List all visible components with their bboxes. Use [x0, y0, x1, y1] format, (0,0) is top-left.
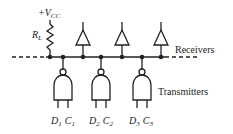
transmitter-2-inputs: D2C2 [88, 115, 113, 128]
transmitter-1-inputs: D1C1 [50, 115, 75, 128]
transmitter-3 [133, 57, 151, 108]
receiver-3 [154, 22, 168, 57]
transmitter-3-inputs: D3C3 [128, 115, 153, 128]
receivers-label: Receivers [175, 44, 215, 55]
resistor-label: RL [31, 29, 42, 42]
resistor-icon [47, 24, 53, 57]
transmitter-2 [92, 57, 110, 108]
vcc-label: +VCC [38, 7, 61, 20]
receiver-2 [115, 22, 129, 57]
bus-diagram: +VCC RL Receivers Transmitters D1C1 D2C2… [0, 0, 233, 134]
receiver-1 [76, 22, 90, 57]
transmitter-1 [54, 57, 72, 108]
transmitters-label: Transmitters [158, 86, 208, 97]
